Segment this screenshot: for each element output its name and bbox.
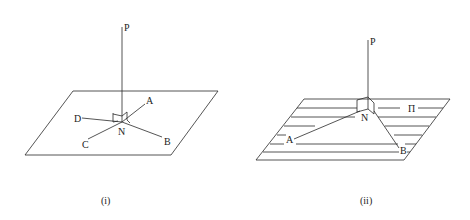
line-NA-ii: [294, 111, 360, 139]
figure-i-labels: P N A B C D (i): [74, 22, 171, 207]
label-N-i: N: [118, 126, 125, 137]
label-P-i: P: [124, 22, 130, 33]
label-B-i: B: [164, 136, 171, 147]
label-C-i: C: [82, 139, 89, 150]
label-N-ii: N: [361, 112, 368, 123]
line-NB-i: [122, 122, 162, 137]
label-A-i: A: [146, 95, 154, 106]
label-A-ii: A: [286, 134, 294, 145]
caption-i: (i): [101, 195, 110, 207]
diagram-canvas: P N A B C D (i) P N A B: [0, 0, 470, 220]
label-P-ii: P: [370, 36, 376, 47]
label-D-i: D: [74, 113, 81, 124]
caption-ii: (ii): [360, 195, 372, 207]
line-NB-ii: [374, 111, 399, 148]
figure-ii-labels: P N A B Π (ii): [286, 36, 415, 207]
line-NC-i: [88, 122, 122, 139]
label-plane-ii: Π: [408, 103, 415, 114]
right-angle-marker-i: [113, 112, 127, 116]
label-B-ii: B: [400, 145, 407, 156]
plane-i: [25, 91, 218, 155]
